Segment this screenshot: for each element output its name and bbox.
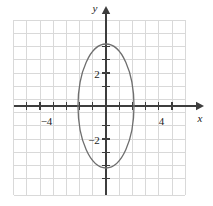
graph-figure: −4 4 2 −2 y x (0, 0, 213, 206)
y-tick-label-neg2: −2 (88, 134, 100, 146)
x-axis (14, 102, 204, 110)
y-tick-label-2: 2 (94, 68, 100, 80)
coordinate-plane-svg: −4 4 2 −2 y x (0, 0, 213, 206)
y-axis-arrowhead (102, 6, 110, 14)
y-axis (102, 6, 110, 195)
x-axis-arrowhead (196, 102, 204, 110)
y-axis-label: y (92, 2, 98, 14)
x-axis-label: x (197, 112, 203, 124)
x-tick-label-4: 4 (159, 115, 165, 127)
grid-lines (14, 20, 186, 195)
x-tick-label-neg4: −4 (41, 115, 53, 127)
